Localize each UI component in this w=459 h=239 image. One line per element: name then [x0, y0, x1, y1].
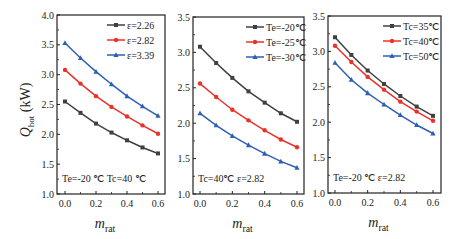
circle-marker [295, 145, 299, 149]
x-tick-label: 0.2 [226, 198, 239, 209]
x-tick-label: 0.4 [121, 198, 134, 209]
triangle-marker [197, 110, 202, 115]
chart-panel-2: 1.01.52.02.53.03.50.00.20.40.6mratTe=-20… [178, 12, 306, 235]
series-line [335, 63, 433, 134]
x-axis-title: mrat [95, 216, 116, 234]
square-marker [141, 145, 145, 149]
x-tick-label: 0.4 [394, 197, 407, 208]
y-tick-label: 3.0 [178, 47, 191, 58]
circle-marker [349, 60, 353, 64]
chart-panel-1: 1.01.52.02.53.03.54.00.00.20.40.6mratε=2… [42, 10, 166, 235]
svg-text:mrat: mrat [95, 216, 116, 234]
y-axis-title-unit: (kW) [18, 83, 33, 116]
y-tick-label: 1.0 [178, 189, 191, 200]
x-tick-label: 0.6 [152, 198, 165, 209]
square-marker [253, 25, 257, 29]
legend: ε=2.26ε=2.82ε=3.39 [107, 20, 154, 61]
square-marker [247, 89, 251, 93]
square-marker [349, 53, 353, 57]
square-marker [390, 24, 394, 28]
legend-label: ε=2.26 [127, 20, 154, 31]
figure: 1.01.52.02.53.03.54.00.00.20.40.6mratε=2… [0, 0, 459, 239]
square-marker [114, 23, 118, 27]
condition-annotation: Tc=40℃ ε=2.82 [198, 173, 264, 184]
y-tick-label: 1.0 [313, 188, 326, 199]
square-marker [110, 131, 114, 135]
square-marker [398, 94, 402, 98]
legend-label: ε=3.39 [127, 50, 154, 61]
circle-marker [333, 44, 337, 48]
square-marker [79, 111, 83, 115]
y-tick-label: 1.0 [42, 189, 55, 200]
x-tick-label: 0.0 [59, 198, 72, 209]
y-tick-label: 3.0 [42, 69, 55, 80]
legend: Te=-20℃Te=-25℃Te=-30℃ [246, 22, 306, 63]
square-marker [263, 101, 267, 105]
circle-marker [365, 75, 369, 79]
circle-marker [125, 114, 129, 118]
x-tick-label: 0.2 [90, 198, 103, 209]
square-marker [382, 82, 386, 86]
square-marker [366, 69, 370, 73]
triangle-marker [62, 40, 67, 45]
y-tick-label: 3.5 [42, 39, 55, 50]
y-tick-label: 4.0 [42, 10, 55, 21]
circle-marker [414, 109, 418, 113]
circle-marker [262, 128, 266, 132]
x-tick-label: 0.6 [427, 197, 440, 208]
series-2 [63, 68, 160, 136]
y-axis-title-subscript: hot [26, 116, 36, 128]
x-axis-title: mrat [232, 216, 253, 234]
square-marker [230, 76, 234, 80]
legend-label: Tc=50℃ [403, 51, 440, 62]
square-marker [333, 35, 337, 39]
legend-label: Tc=35℃ [403, 21, 440, 32]
circle-marker [78, 81, 82, 85]
circle-marker [253, 40, 257, 44]
x-tick-label: 0.0 [194, 198, 207, 209]
svg-text:mrat: mrat [368, 215, 389, 233]
circle-marker [140, 123, 144, 127]
y-tick-label: 2.5 [313, 81, 326, 92]
circle-marker [114, 38, 118, 42]
y-tick-label: 3.5 [313, 11, 326, 22]
svg-text:mrat: mrat [232, 216, 253, 234]
triangle-marker [332, 60, 337, 65]
square-marker [214, 61, 218, 65]
legend: Tc=35℃Tc=40℃Tc=50℃ [383, 21, 440, 62]
circle-marker [109, 105, 113, 109]
circle-marker [398, 99, 402, 103]
circle-marker [156, 132, 160, 136]
circle-marker [390, 39, 394, 43]
y-tick-label: 2.5 [42, 99, 55, 110]
square-marker [94, 122, 98, 126]
x-tick-label: 0.0 [329, 197, 342, 208]
square-marker [279, 111, 283, 115]
y-tick-label: 1.5 [42, 159, 55, 170]
series-3 [332, 60, 435, 136]
y-tick-label: 2.0 [178, 118, 191, 129]
y-tick-label: 1.5 [178, 153, 191, 164]
circle-marker [198, 81, 202, 85]
x-tick-label: 0.4 [258, 198, 271, 209]
square-marker [431, 114, 435, 118]
y-tick-label: 2.0 [313, 117, 326, 128]
square-marker [156, 151, 160, 155]
y-tick-label: 1.5 [313, 152, 326, 163]
y-tick-label: 3.0 [313, 46, 326, 57]
circle-marker [230, 108, 234, 112]
y-tick-label: 3.5 [178, 12, 191, 23]
circle-marker [214, 95, 218, 99]
y-tick-label: 2.0 [42, 129, 55, 140]
square-marker [295, 120, 299, 124]
x-tick-label: 0.2 [361, 197, 374, 208]
chart-panel-3: 1.01.52.02.53.03.50.00.20.40.6mratTc=35℃… [313, 11, 442, 234]
legend-label: Te=-30℃ [266, 52, 306, 63]
legend-label: ε=2.82 [127, 35, 154, 46]
circle-marker [431, 119, 435, 123]
circle-marker [94, 94, 98, 98]
legend-label: Te=-25℃ [266, 37, 306, 48]
y-axis-title-symbol: Q [18, 127, 33, 137]
legend-label: Te=-20℃ [266, 22, 306, 33]
square-marker [198, 45, 202, 49]
